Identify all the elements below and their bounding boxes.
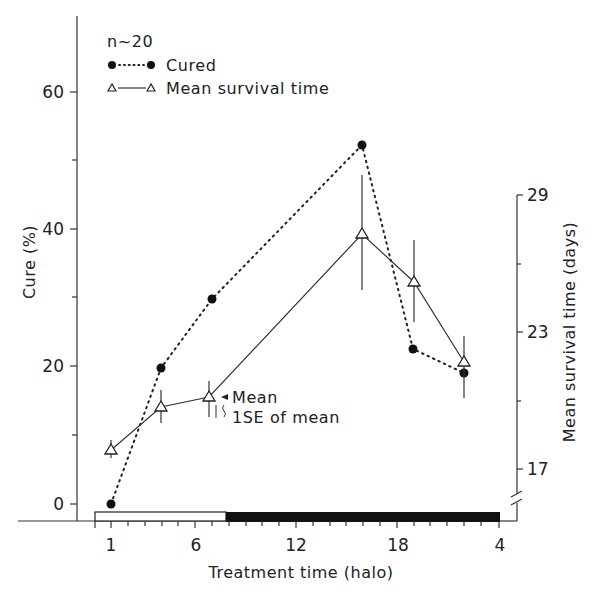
x-tick-18: 18 xyxy=(387,535,409,555)
y-tick-40: 40 xyxy=(42,219,64,239)
legend-cured-marker-right xyxy=(147,61,155,69)
legend-survival-marker-left xyxy=(108,84,116,91)
x-tick-4: 4 xyxy=(495,535,506,555)
y2-tick-17: 17 xyxy=(527,459,549,479)
x-tick-1: 1 xyxy=(106,535,117,555)
mean-pointer-arrow-icon xyxy=(221,394,228,400)
right-y-axis xyxy=(511,195,523,521)
x-tick-6: 6 xyxy=(191,535,202,555)
dark-period-bar xyxy=(226,512,500,522)
x-tick-12: 12 xyxy=(285,535,307,555)
legend-survival-marker-right xyxy=(147,84,155,91)
y-tick-0: 0 xyxy=(53,494,64,514)
legend-header: n~20 xyxy=(107,32,153,51)
y2-tick-29: 29 xyxy=(527,185,549,205)
legend-survival-label: Mean survival time xyxy=(166,79,329,98)
x-axis-ticks xyxy=(95,521,499,528)
legend-cured-marker-left xyxy=(108,61,116,69)
legend-cured-label: Cured xyxy=(166,56,217,75)
annotation-mean: Mean xyxy=(232,388,278,407)
annotation-se: 1SE of mean xyxy=(232,408,340,427)
y2-tick-23: 23 xyxy=(527,322,549,342)
left-y-axis xyxy=(70,16,77,521)
y-tick-20: 20 xyxy=(42,356,64,376)
cured-markers xyxy=(107,141,469,509)
se-bracket-icon xyxy=(216,405,226,418)
legend: n~20 Cured Mean survival time xyxy=(107,32,329,98)
x-axis-title: Treatment time (halo) xyxy=(208,563,394,582)
chart-canvas: 60 40 20 0 Cure (%) 1 6 xyxy=(0,0,595,594)
light-period-bar xyxy=(95,512,226,521)
y-tick-60: 60 xyxy=(42,82,64,102)
y-axis-title: Cure (%) xyxy=(20,225,39,299)
y2-axis-title: Mean survival time (days) xyxy=(560,222,579,442)
cured-line xyxy=(111,145,464,504)
